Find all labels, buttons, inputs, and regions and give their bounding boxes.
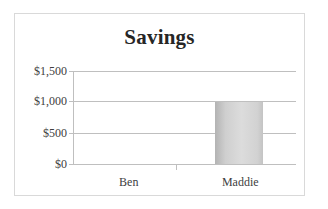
- y-axis-tick-1000: [69, 101, 73, 102]
- chart-container: Savings $1,500 $1,000 $500 $0 Ben Maddie: [14, 13, 305, 196]
- y-axis-line: [73, 71, 74, 165]
- x-axis-category-divider-tick: [176, 164, 177, 170]
- y-axis-tick-label-1000: $1,000: [0, 95, 67, 107]
- y-axis-tick-label-0: $0: [0, 158, 67, 170]
- y-axis-tick-0: [69, 164, 73, 165]
- gridline-1500: [73, 71, 296, 72]
- x-axis-label-ben: Ben: [73, 176, 185, 196]
- y-axis-tick-1500: [69, 71, 73, 72]
- y-axis-tick-500: [69, 133, 73, 134]
- axis-baseline: [73, 164, 296, 165]
- y-axis-labels: $1,500 $1,000 $500 $0: [15, 14, 67, 197]
- y-axis-tick-label-1500: $1,500: [0, 65, 67, 77]
- x-axis-labels: Ben Maddie: [73, 176, 296, 196]
- plot-area: [73, 14, 296, 197]
- bar-maddie[interactable]: [215, 102, 263, 164]
- y-axis-tick-label-500: $500: [0, 127, 67, 139]
- x-axis-label-maddie: Maddie: [185, 176, 297, 196]
